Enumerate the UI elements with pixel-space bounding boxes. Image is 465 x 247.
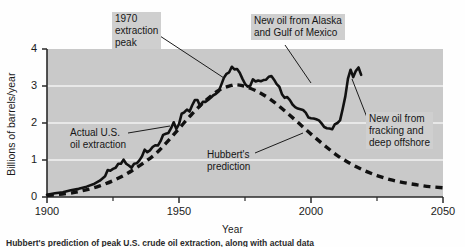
x-tick-label-1900: 1900	[27, 205, 67, 218]
figure-container: 01234 1900195020002050 Billions of barre…	[0, 0, 465, 247]
x-tick-marks	[47, 197, 443, 203]
y-axis-title: Billions of barrels/year	[5, 59, 17, 189]
annotation-actual-us-oil: Actual U.S. oil extraction	[67, 126, 129, 152]
x-tick-label-2000: 2000	[291, 205, 331, 218]
figure-caption: Hubbert's prediction of peak U.S. crude …	[6, 238, 461, 247]
x-tick-label-2050: 2050	[423, 205, 463, 218]
annotation-fracking-offshore: New oil from fracking and deep offshore	[366, 112, 433, 149]
y-tick-label-2: 2	[23, 116, 37, 129]
x-axis-title: Year	[0, 224, 465, 236]
y-tick-label-1: 1	[23, 153, 37, 166]
annotation-peak-1970: 1970 extraction peak	[112, 12, 161, 49]
y-tick-label-4: 4	[23, 42, 37, 55]
x-tick-label-1950: 1950	[159, 205, 199, 218]
annotation-alaska-gulf: New oil from Alaska and Gulf of Mexico	[251, 14, 345, 40]
y-tick-label-0: 0	[23, 190, 37, 203]
annotation-hubbert-prediction: Hubbert's prediction	[204, 148, 253, 174]
y-tick-label-3: 3	[23, 79, 37, 92]
